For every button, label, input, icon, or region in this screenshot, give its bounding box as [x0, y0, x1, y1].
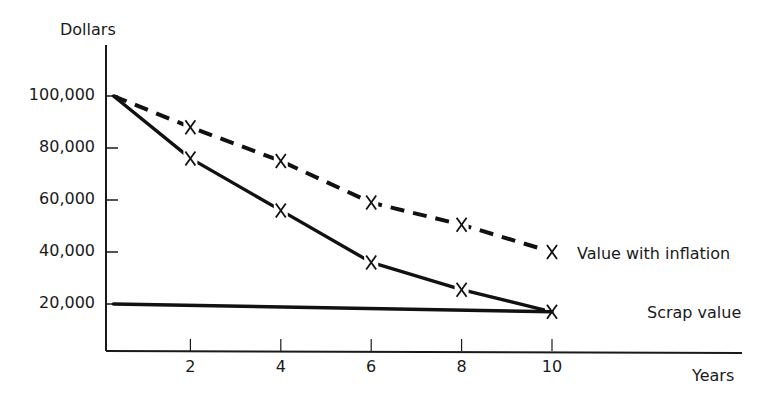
y-axis-label: Dollars: [60, 20, 116, 39]
y-tick-label: 20,000: [0, 293, 95, 312]
series-line-value-with-inflation: [114, 96, 552, 252]
x-tick-label: 8: [447, 357, 477, 376]
x-axis-line: [106, 351, 742, 353]
x-tick-label: 6: [356, 357, 386, 376]
legend-scrap-label: Scrap value: [647, 303, 741, 322]
x-tick-label: 2: [175, 357, 205, 376]
y-tick-label: 80,000: [0, 137, 95, 156]
y-tick-label: 40,000: [0, 241, 95, 260]
legend-inflation-label: Value with inflation: [577, 244, 730, 263]
x-axis-label: Years: [692, 366, 734, 385]
x-tick-label: 10: [537, 357, 567, 376]
series-line-depreciated-value: [114, 96, 552, 312]
x-tick-label: 4: [266, 357, 296, 376]
series-line-scrap-value: [114, 304, 552, 312]
series-group: [114, 96, 559, 320]
y-tick-label: 100,000: [0, 85, 95, 104]
y-tick-label: 60,000: [0, 189, 95, 208]
chart-canvas: [0, 0, 774, 403]
